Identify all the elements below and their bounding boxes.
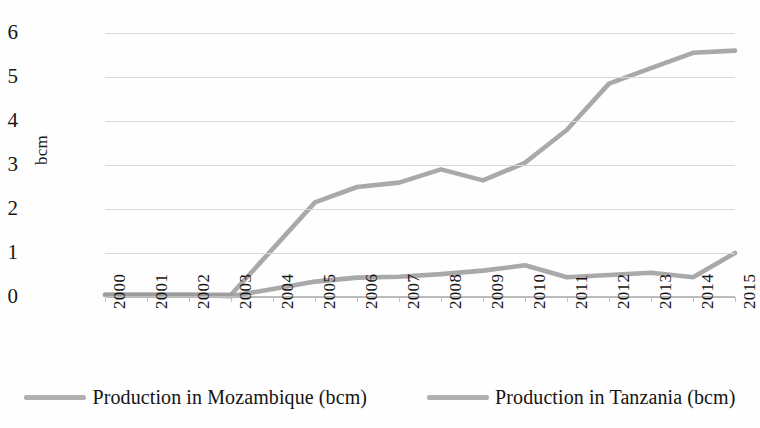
x-tick-label: 2009 [489, 274, 506, 309]
gridline-1 [105, 253, 735, 254]
series-line [105, 51, 735, 295]
line-chart: bcm 0123456 2000200120022003200420052006… [0, 0, 760, 428]
gridline-4 [105, 121, 735, 122]
y-tick-label: 1 [0, 242, 18, 263]
x-tick-label: 2008 [447, 274, 464, 309]
legend-line-icon [427, 395, 489, 400]
y-tick-label: 5 [0, 66, 18, 87]
x-tick-label: 2002 [195, 274, 212, 309]
gridline-6 [105, 33, 735, 34]
y-tick-label: 3 [0, 154, 18, 175]
legend-item[interactable]: Production in Mozambique (bcm) [24, 387, 367, 407]
gridline-5 [105, 77, 735, 78]
legend-label: Production in Mozambique (bcm) [92, 387, 367, 407]
legend-label: Production in Tanzania (bcm) [495, 387, 735, 407]
x-tick [735, 297, 736, 302]
legend-item[interactable]: Production in Tanzania (bcm) [427, 387, 735, 407]
x-tick-label: 2014 [699, 274, 716, 309]
x-tick-label: 2000 [111, 274, 128, 309]
chart-legend: Production in Mozambique (bcm)Production… [0, 387, 760, 407]
x-tick-label: 2004 [279, 274, 296, 309]
x-tick-label: 2012 [615, 274, 632, 309]
x-tick-label: 2005 [321, 274, 338, 309]
x-tick-label: 2015 [741, 274, 758, 309]
x-tick-label: 2013 [657, 274, 674, 309]
y-tick-label: 2 [0, 198, 18, 219]
y-tick-label: 6 [0, 22, 18, 43]
x-tick-label: 2001 [153, 274, 170, 309]
legend-line-icon [24, 395, 86, 400]
y-tick-label: 4 [0, 110, 18, 131]
x-tick-label: 2010 [531, 274, 548, 309]
gridline-3 [105, 165, 735, 166]
x-tick-label: 2006 [363, 274, 380, 309]
x-axis-labels: 2000200120022003200420052006200720082009… [105, 301, 735, 375]
y-tick-label: 0 [0, 286, 18, 307]
x-tick-label: 2003 [237, 274, 254, 309]
y-axis-title: bcm [32, 120, 52, 180]
x-tick-label: 2011 [573, 274, 590, 309]
gridline-2 [105, 209, 735, 210]
x-tick-label: 2007 [405, 274, 422, 309]
plot-area [105, 33, 735, 297]
